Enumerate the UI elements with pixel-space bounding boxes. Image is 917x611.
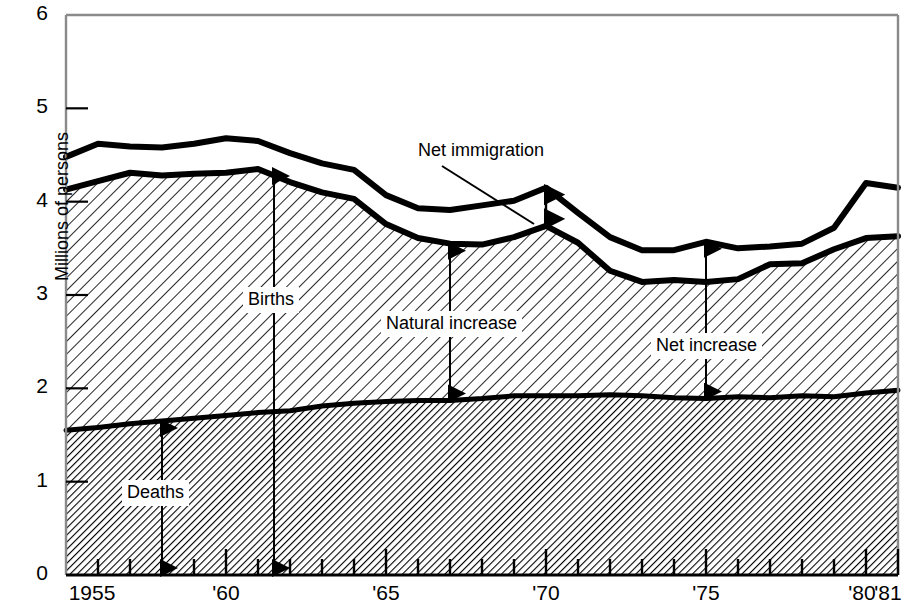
chart-figure: Millions of persons 6543210 1955'60'65'7… xyxy=(0,0,917,611)
y-tick-label-0: 0 xyxy=(8,561,48,585)
annotation-label-deaths: Deaths xyxy=(122,480,189,506)
annotation-label-net-increase: Net increase xyxy=(651,333,762,359)
x-tick-label-1970: '70 xyxy=(512,581,580,605)
x-tick-label-1965: '65 xyxy=(352,581,420,605)
annotation-label-births: Births xyxy=(243,287,299,313)
x-tick-label-1960: '60 xyxy=(192,581,260,605)
y-tick-label-4: 4 xyxy=(8,188,48,212)
y-tick-label-1: 1 xyxy=(8,468,48,492)
x-tick-label-1955: 1955 xyxy=(58,581,126,605)
y-tick-label-5: 5 xyxy=(8,94,48,118)
chart-canvas xyxy=(0,0,917,611)
x-tick-label-1981: '81 xyxy=(854,581,917,605)
annotation-label-net-immigration: Net immigration xyxy=(418,140,544,161)
annotation-label-natural-increase: Natural increase xyxy=(381,311,522,337)
y-tick-label-6: 6 xyxy=(8,1,48,25)
y-tick-label-2: 2 xyxy=(8,374,48,398)
x-tick-label-1975: '75 xyxy=(672,581,740,605)
y-axis-title: Millions of persons xyxy=(52,107,73,307)
y-tick-label-3: 3 xyxy=(8,281,48,305)
